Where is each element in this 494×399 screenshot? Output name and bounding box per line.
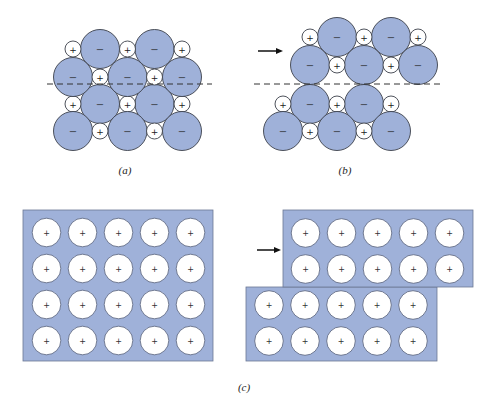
positive-ion: + <box>104 254 133 283</box>
shift-arrow-icon <box>257 247 281 253</box>
positive-ion: + <box>291 255 320 284</box>
plus-sign: + <box>124 45 132 55</box>
plus-sign: + <box>115 301 122 310</box>
minus-sign: − <box>123 126 131 137</box>
panel-b-label: (b) <box>339 164 352 177</box>
anion: − <box>264 112 303 151</box>
cation: + <box>65 96 81 112</box>
positive-ion: + <box>327 255 356 284</box>
plus-sign: + <box>360 33 368 43</box>
positive-ion: + <box>176 326 205 355</box>
plus-sign: + <box>302 301 309 310</box>
plus-sign: + <box>410 301 417 310</box>
positive-ion: + <box>68 326 97 355</box>
anion: − <box>399 46 438 85</box>
minus-sign: − <box>306 99 314 110</box>
plus-sign: + <box>410 229 417 238</box>
positive-ion: + <box>140 254 169 283</box>
minus-sign: − <box>333 32 341 43</box>
positive-ion: + <box>104 218 133 247</box>
plus-sign: + <box>446 229 453 238</box>
cation: + <box>410 29 426 45</box>
plus-sign: + <box>43 229 50 238</box>
anion: − <box>318 112 357 151</box>
plus-sign: + <box>338 229 345 238</box>
positive-ion: + <box>255 291 284 320</box>
positive-ion: + <box>399 327 428 356</box>
plus-sign: + <box>266 337 273 346</box>
plus-sign: + <box>306 33 314 43</box>
positive-ion: + <box>399 291 428 320</box>
minus-sign: − <box>387 126 395 137</box>
cation: + <box>383 96 399 112</box>
plus-sign: + <box>96 127 104 137</box>
anion: − <box>345 46 384 85</box>
positive-ion: + <box>176 290 205 319</box>
plus-sign: + <box>187 301 194 310</box>
plus-sign: + <box>79 265 86 274</box>
anion: − <box>108 58 147 97</box>
plus-sign: + <box>387 100 395 110</box>
plus-sign: + <box>374 337 381 346</box>
cation: + <box>120 41 136 57</box>
cation: + <box>120 96 136 112</box>
ionic-crystal-figure: −−+++−−+++−−−++−−−++ −−+++−−−++−−+++−−−+… <box>0 0 494 399</box>
cation: + <box>92 69 108 85</box>
plus-sign: + <box>151 301 158 310</box>
right-top-metal-slab: ++++++++++ <box>283 210 473 287</box>
anion: − <box>54 58 93 97</box>
panel-c: ++++++++++++++++++++++++++++++++++++++++ <box>23 210 473 361</box>
cation: + <box>329 96 345 112</box>
plus-sign: + <box>302 229 309 238</box>
plus-sign: + <box>387 61 395 71</box>
cation: + <box>147 123 163 139</box>
cation: + <box>92 123 108 139</box>
minus-sign: − <box>96 44 104 55</box>
plus-sign: + <box>338 265 345 274</box>
plus-sign: + <box>374 229 381 238</box>
positive-ion: + <box>363 291 392 320</box>
plus-sign: + <box>302 337 309 346</box>
plus-sign: + <box>333 100 341 110</box>
minus-sign: − <box>387 32 395 43</box>
positive-ion: + <box>68 254 97 283</box>
minus-sign: − <box>279 126 287 137</box>
shift-arrow-icon <box>258 48 283 54</box>
anion: − <box>372 112 411 151</box>
anion: − <box>108 112 147 151</box>
minus-sign: − <box>96 99 104 110</box>
panel-a-label: (a) <box>119 164 132 177</box>
positive-ion: + <box>68 218 97 247</box>
positive-ion: + <box>291 291 320 320</box>
plus-sign: + <box>410 265 417 274</box>
plus-sign: + <box>79 301 86 310</box>
positive-ion: + <box>32 326 61 355</box>
positive-ion: + <box>104 326 133 355</box>
positive-ion: + <box>140 218 169 247</box>
plus-sign: + <box>187 265 194 274</box>
cation: + <box>147 69 163 85</box>
positive-ion: + <box>32 290 61 319</box>
cation: + <box>383 57 399 73</box>
plus-sign: + <box>338 301 345 310</box>
positive-ion: + <box>176 218 205 247</box>
panel-a: −−+++−−+++−−−++−−−++ <box>47 30 212 151</box>
positive-ion: + <box>363 255 392 284</box>
plus-sign: + <box>69 100 77 110</box>
cation: + <box>356 123 372 139</box>
positive-ion: + <box>32 218 61 247</box>
positive-ion: + <box>140 326 169 355</box>
plus-sign: + <box>79 229 86 238</box>
plus-sign: + <box>124 100 132 110</box>
minus-sign: − <box>360 60 368 71</box>
positive-ion: + <box>399 219 428 248</box>
positive-ion: + <box>255 327 284 356</box>
cation: + <box>356 29 372 45</box>
positive-ion: + <box>104 290 133 319</box>
positive-ion: + <box>363 219 392 248</box>
anion: − <box>163 58 202 97</box>
plus-sign: + <box>115 265 122 274</box>
plus-sign: + <box>178 45 186 55</box>
minus-sign: − <box>333 126 341 137</box>
plus-sign: + <box>338 337 345 346</box>
